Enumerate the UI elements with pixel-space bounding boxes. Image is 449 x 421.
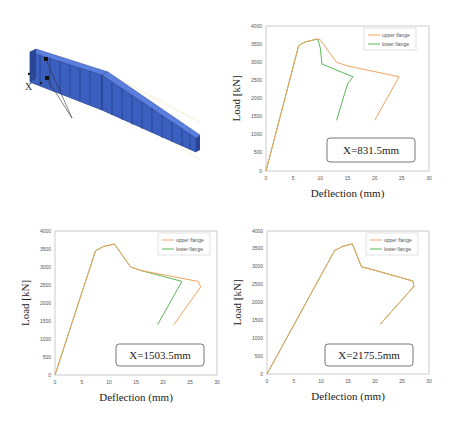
x-tick-label: 20 [372,175,378,181]
y-tick-label: 0 [259,168,262,174]
x-axis-label: Deflection (mm) [311,390,385,403]
x-tick-label: 10 [106,379,112,385]
annotation-box: X=831.5mm [327,138,415,162]
x-tick-label: 20 [372,378,378,384]
legend-label: lower flange [384,246,411,252]
chart-x-831-5: 0500100015002000250030003500400005101520… [230,10,449,210]
x-tick-label: 0 [266,378,269,384]
position-label: X=2175.5mm [338,349,400,361]
x-tick-label: 15 [345,378,351,384]
y-tick-label: 2500 [251,77,262,83]
beam-model-svg: X [0,10,230,190]
y-tick-label: 1500 [40,318,51,324]
x-tick-label: 30 [426,175,432,181]
legend-label: upper flange [384,237,412,243]
y-axis-label: Load [kN] [19,280,31,326]
x-tick-label: 25 [399,378,405,384]
y-tick-label: 4000 [40,228,51,234]
legend-label: lower flange [176,246,203,252]
y-tick-label: 1000 [251,131,262,137]
y-tick-label: 0 [48,372,51,378]
legend: upper flangelower flange [366,233,418,255]
annotation-box: X=2175.5mm [325,344,413,366]
chart-svg: 0500100015002000250030003500400005101520… [0,220,225,421]
x-axis-label: Deflection (mm) [99,391,173,404]
x-tick-label: 10 [318,175,324,181]
position-label: X=1503.5mm [129,349,191,361]
x-tick-label: 20 [160,379,166,385]
y-tick-label: 4000 [252,228,263,234]
x-tick-label: 0 [265,175,268,181]
y-tick-label: 3000 [40,264,51,270]
annotation-box: X=1503.5mm [116,344,204,366]
y-tick-label: 1500 [252,317,263,323]
y-tick-label: 4000 [251,23,262,29]
chart-svg: 0500100015002000250030003500400005101520… [225,220,449,421]
y-tick-label: 3500 [252,245,263,251]
x-tick-label: 0 [54,379,57,385]
y-tick-label: 3500 [40,246,51,252]
y-tick-label: 3000 [251,59,262,65]
x-tick-label: 30 [214,379,220,385]
y-tick-label: 2000 [40,300,51,306]
legend: upper flangelower flange [364,28,416,50]
y-tick-label: 3000 [252,263,263,269]
x-dimension-label: X [25,81,33,92]
y-tick-label: 2000 [251,95,262,101]
x-tick-label: 25 [399,175,405,181]
y-tick-label: 3500 [251,41,262,47]
y-tick-label: 500 [43,354,52,360]
legend: upper flangelower flange [158,233,210,255]
y-axis-label: Load [kN] [231,279,243,325]
legend-label: upper flange [382,32,410,38]
y-tick-label: 2000 [252,299,263,305]
x-tick-label: 5 [293,378,296,384]
beam-model-figure: X [0,10,230,190]
legend-label: upper flange [176,237,204,243]
x-tick-label: 15 [345,175,351,181]
x-tick-label: 5 [292,175,295,181]
legend-label: lower flange [382,41,409,47]
x-tick-label: 10 [318,378,324,384]
chart-x-2175-5: 0500100015002000250030003500400005101520… [225,220,449,421]
x-tick-label: 15 [133,379,139,385]
y-axis-label: Load [kN] [230,75,242,121]
chart-x-1503-5: 0500100015002000250030003500400005101520… [0,220,225,421]
y-tick-label: 0 [260,371,263,377]
y-tick-label: 500 [255,353,264,359]
x-tick-label: 25 [187,379,193,385]
chart-svg: 0500100015002000250030003500400005101520… [230,10,449,210]
position-label: X=831.5mm [343,144,399,156]
y-tick-label: 2500 [40,282,51,288]
y-tick-label: 2500 [252,281,263,287]
y-tick-label: 1000 [252,335,263,341]
x-axis-label: Deflection (mm) [311,187,385,200]
y-tick-label: 1000 [40,336,51,342]
x-tick-label: 5 [81,379,84,385]
x-tick-label: 30 [426,378,432,384]
y-tick-label: 1500 [251,113,262,119]
y-tick-label: 500 [254,149,263,155]
